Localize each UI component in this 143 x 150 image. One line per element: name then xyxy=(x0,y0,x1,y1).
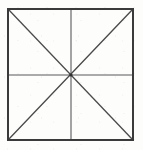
figure-container: Square with diagonals and median lines xyxy=(0,0,143,150)
center-intersection-dot xyxy=(69,73,72,76)
square-diagonals-figure: Square with diagonals and median lines xyxy=(0,0,143,150)
